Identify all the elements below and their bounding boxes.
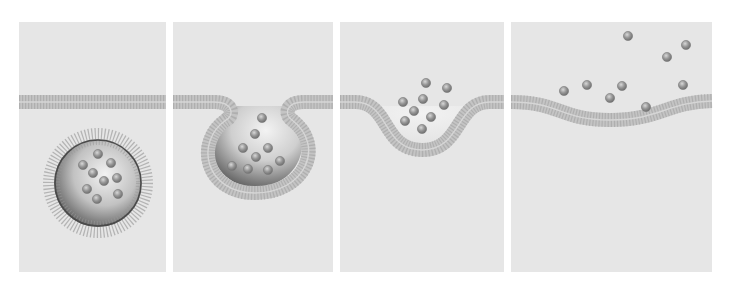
panel-stage-4-content-release — [511, 22, 712, 272]
cargo-particle — [400, 116, 409, 125]
diagram-canvas — [0, 0, 729, 291]
cargo-particle — [681, 40, 690, 49]
panel-background — [511, 22, 712, 272]
cargo-particle — [106, 158, 115, 167]
cargo-particle — [99, 176, 108, 185]
panel-stage-1-vesicle-approach — [19, 22, 166, 272]
panel-stage-3-pore-opening — [340, 22, 504, 272]
cargo-particle — [113, 189, 122, 198]
cargo-particle — [409, 106, 418, 115]
cargo-particle — [227, 161, 236, 170]
cargo-particle — [439, 100, 448, 109]
cargo-particle — [605, 93, 614, 102]
cargo-particle — [243, 164, 252, 173]
cargo-particle — [238, 143, 247, 152]
cargo-particle — [251, 152, 260, 161]
cargo-particle — [263, 143, 272, 152]
cargo-particle — [641, 102, 650, 111]
cargo-particle — [398, 97, 407, 106]
cargo-particle — [250, 129, 259, 138]
cargo-particle — [442, 83, 451, 92]
cargo-particle — [112, 173, 121, 182]
cargo-particle — [678, 80, 687, 89]
cargo-particle — [623, 31, 632, 40]
cargo-particle — [78, 160, 87, 169]
cargo-particle — [257, 113, 266, 122]
cargo-particle — [426, 112, 435, 121]
cargo-particle — [559, 86, 568, 95]
exocytosis-diagram — [0, 0, 729, 291]
cargo-particle — [582, 80, 591, 89]
panel-stage-2-membrane-fusion — [173, 22, 333, 272]
panels-layer — [19, 22, 712, 272]
cargo-particle — [418, 94, 427, 103]
cargo-particle — [662, 52, 671, 61]
cargo-particle — [617, 81, 626, 90]
cargo-particle — [263, 165, 272, 174]
cargo-particle — [421, 78, 430, 87]
cargo-particle — [88, 168, 97, 177]
cargo-particle — [82, 184, 91, 193]
cargo-particle — [417, 124, 426, 133]
cargo-particle — [93, 149, 102, 158]
cargo-particle — [92, 194, 101, 203]
cargo-particle — [275, 156, 284, 165]
